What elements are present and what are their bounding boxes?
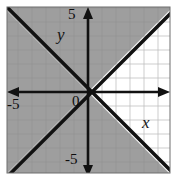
coordinate-plane-svg: [0, 0, 177, 186]
y-axis-tick-label-5: 5: [68, 7, 76, 22]
y-axis-label: y: [57, 26, 65, 43]
origin-label: 0: [72, 94, 80, 109]
y-axis-tick-label-negative-5: -5: [65, 152, 78, 167]
graph-figure: y x 5 -5 0 -5: [0, 0, 177, 186]
x-axis-tick-label-negative-5: -5: [7, 97, 20, 112]
x-axis-label: x: [142, 114, 150, 131]
